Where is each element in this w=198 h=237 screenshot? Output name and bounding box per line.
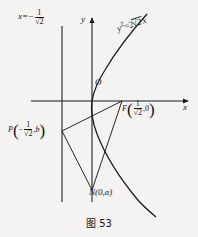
directrix-denominator: √2 <box>35 18 43 26</box>
p-fraction: 1√2 <box>24 121 32 138</box>
origin-label: O <box>95 78 102 87</box>
focus-open-paren: ( <box>127 100 133 119</box>
directrix-lead: x=− <box>18 11 34 21</box>
p-close-paren: ) <box>39 121 45 140</box>
p-sign: − <box>19 125 24 134</box>
figure-container: x=−1√2 y2=2√2x y x O F(1√2,0) P(−1√2,b) … <box>0 0 198 237</box>
segment-f-n <box>92 101 122 190</box>
focus-fraction: 1√2 <box>134 100 142 117</box>
y-axis-label: y <box>81 15 85 24</box>
p-denominator: √2 <box>24 130 32 138</box>
point-p-label: P(−1√2,b) <box>8 121 45 139</box>
figure-caption: 图 53 <box>0 215 198 230</box>
geometry-diagram <box>0 0 198 237</box>
point-n-label: N(0,a) <box>89 188 112 197</box>
focus-close-paren: ) <box>149 100 155 119</box>
directrix-fraction: 1√2 <box>35 9 43 26</box>
segment-p-n <box>62 131 92 190</box>
focus-denominator: √2 <box>134 109 142 117</box>
directrix-equation-label: x=−1√2 <box>18 9 45 26</box>
focus-label: F(1√2,0) <box>122 100 155 118</box>
x-axis-label: x <box>183 103 187 112</box>
